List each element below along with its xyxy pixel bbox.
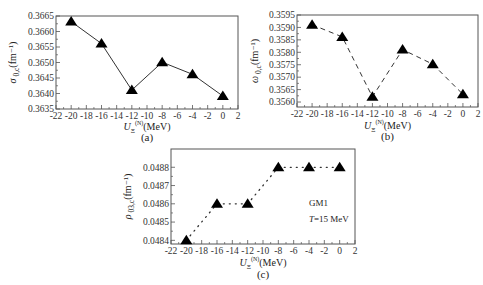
x-tick-label: -6 [414, 109, 422, 119]
x-tick-label: -2 [320, 246, 328, 256]
y-axis-label: ρ 03,c(fm⁻¹) [122, 174, 136, 220]
x-tick-label: -14 [351, 109, 364, 119]
x-tick-label: -4 [305, 246, 313, 256]
chart-panel-c: -22-20-18-16-14-12-10-8-6-4-2020.04840.0… [122, 149, 358, 281]
data-point-marker [187, 69, 199, 79]
x-tick-label: -8 [158, 111, 166, 121]
data-point-marker [180, 235, 192, 245]
y-tick-label: 0.0486 [143, 199, 169, 209]
data-point-marker [156, 57, 168, 67]
data-point-marker [303, 162, 315, 172]
data-point-marker [336, 31, 348, 41]
x-tick-label: -22 [165, 246, 178, 256]
x-tick-label: -10 [381, 109, 394, 119]
x-tick-label: -8 [274, 246, 282, 256]
y-axis-label: σ 0,c(fm⁻¹) [7, 42, 21, 84]
y-tick-label: 0.3570 [269, 72, 295, 82]
data-point-marker [272, 162, 284, 172]
x-tick-label: 0 [220, 111, 225, 121]
data-point-marker [211, 198, 223, 208]
y-tick-label: 0.3575 [269, 60, 295, 70]
data-point-marker [397, 44, 409, 54]
x-tick-label: -12 [241, 246, 254, 256]
x-tick-label: -4 [429, 109, 437, 119]
series-line [312, 25, 463, 97]
x-tick-label: -4 [189, 111, 197, 121]
x-tick-label: -8 [399, 109, 407, 119]
y-tick-label: 0.0488 [143, 163, 169, 173]
data-point-marker [65, 16, 77, 26]
x-tick-label: -6 [290, 246, 298, 256]
y-tick-label: 0.3665 [28, 11, 54, 21]
data-point-marker [306, 19, 318, 29]
x-tick-label: 2 [353, 246, 358, 256]
x-tick-label: -18 [321, 109, 334, 119]
x-tick-label: -20 [65, 111, 78, 121]
x-tick-label: -16 [95, 111, 108, 121]
y-tick-label: 0.3640 [28, 89, 54, 99]
y-tick-label: 0.3655 [28, 42, 54, 52]
y-tick-label: 0.0485 [143, 217, 169, 227]
y-tick-label: 0.3645 [28, 73, 54, 83]
data-point-marker [96, 38, 108, 48]
x-tick-label: -10 [257, 246, 270, 256]
x-tick-label: -20 [180, 246, 193, 256]
data-point-marker [217, 90, 229, 100]
y-tick-label: 0.3650 [28, 58, 54, 68]
data-point-marker [427, 59, 439, 68]
x-tick-label: -6 [173, 111, 181, 121]
plot-frame [297, 15, 478, 107]
chart-panel-a: -22-20-18-16-14-12-10-8-6-4-2020.36350.3… [7, 11, 241, 144]
annotation-model: GM1 [309, 198, 328, 208]
chart-panel-b: -22-20-18-16-14-12-10-8-6-4-2020.35600.3… [249, 10, 481, 143]
y-tick-label: 0.3590 [269, 23, 295, 33]
x-tick-label: -14 [226, 246, 239, 256]
x-tick-label: -16 [336, 109, 349, 119]
y-tick-label: 0.3585 [269, 35, 295, 45]
x-tick-label: -14 [110, 111, 123, 121]
y-tick-label: 0.0487 [143, 181, 169, 191]
x-tick-label: -12 [366, 109, 379, 119]
panel-label: (a) [141, 131, 154, 144]
figure: -22-20-18-16-14-12-10-8-6-4-2020.36350.3… [0, 0, 483, 285]
x-tick-label: 2 [236, 111, 241, 121]
y-tick-label: 0.3560 [269, 97, 295, 107]
x-tick-label: -2 [204, 111, 212, 121]
y-tick-label: 0.3565 [269, 85, 295, 95]
y-tick-label: 0.3580 [269, 48, 295, 58]
series-line [71, 22, 223, 96]
x-tick-label: -16 [211, 246, 224, 256]
x-tick-label: -18 [195, 246, 208, 256]
annotation-temperature: T=15 MeV [309, 214, 349, 224]
x-tick-label: 2 [476, 109, 481, 119]
y-tick-label: 0.3595 [269, 10, 295, 20]
y-tick-label: 0.0484 [143, 236, 169, 246]
panel-label: (c) [257, 268, 270, 281]
panel-label: (b) [381, 130, 394, 143]
x-tick-label: -18 [80, 111, 93, 121]
x-tick-label: -22 [291, 109, 304, 119]
y-axis-label: ω 0,c(fm⁻¹) [249, 39, 263, 83]
y-tick-label: 0.3635 [28, 104, 54, 114]
x-tick-label: 0 [337, 246, 342, 256]
x-tick-label: -20 [306, 109, 319, 119]
plot-frame [171, 149, 355, 244]
data-point-marker [366, 91, 378, 101]
x-tick-label: 0 [461, 109, 466, 119]
data-point-marker [334, 162, 346, 172]
x-tick-label: -2 [444, 109, 452, 119]
y-tick-label: 0.3660 [28, 27, 54, 37]
